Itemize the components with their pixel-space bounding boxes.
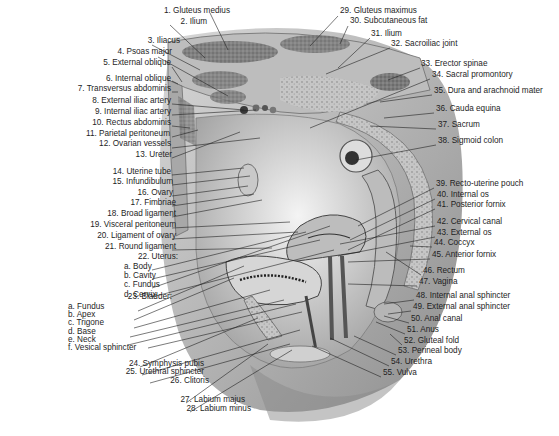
- label-left-1: 1. Gluteus medius: [164, 6, 230, 15]
- label-right-48: 48. Internal anal sphincter: [416, 291, 510, 300]
- label-right-40: 40. Internal os: [437, 190, 489, 199]
- label-left-19: 19. Visceral peritoneum: [90, 220, 176, 229]
- label-bladder-heading: 23. Bladder:: [128, 292, 172, 301]
- label-left-11: 11. Parietal peritoneum: [86, 129, 170, 138]
- label-left-10: 10. Rectus abdominis: [92, 118, 171, 127]
- anal-sphincter: [374, 302, 402, 322]
- gluteus-maximus-region: [280, 35, 350, 53]
- ovary: [238, 164, 258, 196]
- label-bottom-left-27: 27. Labium majus: [180, 395, 245, 404]
- erector-spinae-region: [370, 73, 410, 91]
- label-bottom-left-25: 25. Urethral sphincter: [126, 367, 204, 376]
- iliacus-region: [192, 71, 248, 89]
- label-uterus-part: b. Cavity: [124, 271, 156, 280]
- label-right-37: 37. Sacrum: [438, 120, 480, 129]
- label-right-54: 54. Urethra: [391, 357, 432, 366]
- label-left-5: 5. External oblique: [103, 58, 171, 67]
- label-right-46: 46. Rectum: [423, 266, 465, 275]
- label-right-49: 49. External anal sphincter: [413, 302, 510, 311]
- label-right-29: 29. Gluteus maximus: [340, 6, 417, 15]
- label-right-39: 39. Recto-uterine pouch: [436, 179, 523, 188]
- label-left-18: 18. Broad ligament: [107, 209, 176, 218]
- label-right-55: 55. Vulva: [383, 368, 417, 377]
- label-right-51: 51. Anus: [407, 325, 439, 334]
- label-left-4: 4. Psoas major: [117, 47, 172, 56]
- label-right-47: 47. Vagina: [419, 277, 458, 286]
- label-right-33: 33. Erector spinae: [421, 59, 487, 68]
- label-left-8: 8. External iliac artery: [92, 96, 171, 105]
- label-left-16: 16. Ovary: [138, 188, 174, 197]
- label-left-12: 12. Ovarian vessels: [99, 139, 171, 148]
- label-right-31: 31. Ilium: [371, 29, 402, 38]
- label-left-17: 17. Fimbriae: [130, 198, 176, 207]
- label-left-3: 3. Iliacus: [148, 36, 180, 45]
- anatomy-figure: 1. Gluteus medius2. Ilium3. Iliacus4. Ps…: [0, 0, 559, 436]
- label-left-2: 2. Ilium: [181, 17, 207, 26]
- label-right-44: 44. Coccyx: [434, 238, 475, 247]
- label-left-7: 7. Transversus abdominis: [78, 84, 171, 93]
- label-left-14: 14. Uterine tube: [113, 167, 171, 176]
- label-right-35: 35. Dura and arachnoid mater: [434, 86, 543, 95]
- label-right-50: 50. Anal canal: [411, 314, 462, 323]
- label-right-53: 53. Perineal body: [398, 346, 462, 355]
- vulva: [270, 346, 330, 362]
- label-left-9: 9. Internal iliac artery: [95, 107, 171, 116]
- label-left-21: 21. Round ligament: [105, 242, 176, 251]
- label-right-45: 45. Anterior fornix: [432, 250, 496, 259]
- label-uterus-part: c. Fundus: [124, 280, 160, 289]
- label-left-13: 13. Ureter: [136, 150, 172, 159]
- label-right-43: 43. External os: [437, 228, 492, 237]
- label-bottom-left-28: 28. Labium minus: [186, 404, 251, 413]
- label-left-15: 15. Infundibulum: [112, 177, 173, 186]
- gluteus-medius-region: [182, 41, 278, 63]
- label-right-52: 52. Gluteal fold: [404, 336, 459, 345]
- label-uterus-heading: 22. Uterus:: [138, 252, 178, 261]
- label-right-34: 34. Sacral promontory: [432, 70, 513, 79]
- label-bladder-part: f. Vesical sphincter: [68, 343, 136, 352]
- label-right-38: 38. Sigmoid colon: [438, 136, 503, 145]
- label-uterus-part: a. Body: [124, 262, 152, 271]
- label-right-41: 41. Posterior fornix: [437, 200, 506, 209]
- label-left-20: 20. Ligament of ovary: [97, 231, 176, 240]
- label-right-36: 36. Cauda equina: [436, 104, 501, 113]
- label-right-30: 30. Subcutaneous fat: [350, 16, 427, 25]
- label-left-6: 6. Internal oblique: [106, 74, 171, 83]
- label-right-42: 42. Cervical canal: [437, 217, 502, 226]
- psoas-region: [210, 90, 246, 104]
- label-right-32: 32. Sacroiliac joint: [391, 39, 457, 48]
- label-bottom-left-26: 26. Clitoris: [170, 376, 209, 385]
